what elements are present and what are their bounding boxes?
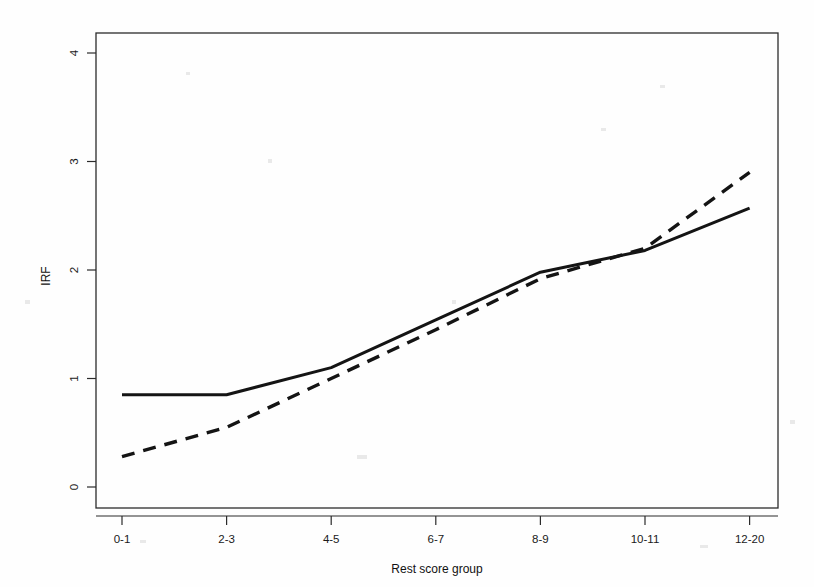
- x-tick-label-0: 0-1: [114, 533, 131, 545]
- x-axis: 0-1 2-3 4-5 6-7 8-9 10-11 12-20 Rest sco…: [96, 516, 778, 576]
- x-tick-label-2: 4-5: [323, 533, 340, 545]
- scan-noise: [25, 72, 795, 548]
- x-tick-label-3: 6-7: [427, 533, 444, 545]
- x-axis-title: Rest score group: [391, 562, 483, 576]
- x-tick-label-6: 12-20: [735, 533, 764, 545]
- y-axis: 0 1 2 3 4 IRF: [39, 49, 96, 490]
- series-group: [122, 172, 750, 456]
- y-tick-label-3: 3: [68, 158, 80, 164]
- figure-canvas: 0 1 2 3 4 IRF 0-1 2-3 4-5 6-7 8-9 10-11 …: [0, 0, 814, 587]
- series-dashed-curve: [122, 172, 750, 456]
- y-tick-label-2: 2: [68, 267, 80, 273]
- x-tick-label-4: 8-9: [532, 533, 549, 545]
- y-tick-label-4: 4: [68, 49, 80, 56]
- irf-line-chart: 0 1 2 3 4 IRF 0-1 2-3 4-5 6-7 8-9 10-11 …: [0, 0, 814, 587]
- y-tick-label-0: 0: [68, 484, 80, 490]
- y-tick-label-1: 1: [68, 375, 80, 381]
- y-axis-title: IRF: [39, 266, 53, 285]
- series-solid-curve: [122, 208, 750, 395]
- x-tick-label-1: 2-3: [218, 533, 235, 545]
- x-tick-label-5: 10-11: [631, 533, 660, 545]
